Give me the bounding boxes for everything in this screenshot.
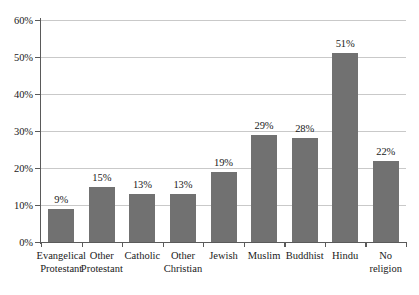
category-label-line: Jewish <box>209 250 238 263</box>
y-tick-mark <box>35 57 40 58</box>
category-label-line: Muslim <box>248 250 281 263</box>
x-axis-category-label: Jewish <box>209 250 238 263</box>
x-tick-mark <box>82 242 83 247</box>
x-axis-category-label: Noreligion <box>369 250 402 275</box>
bar-value-label: 13% <box>173 179 192 190</box>
y-axis-tick-label: 20% <box>14 163 33 174</box>
category-label-line: religion <box>369 263 402 276</box>
x-tick-mark <box>163 242 164 247</box>
bar-value-label: 28% <box>295 123 314 134</box>
category-label-line: Other <box>81 250 123 263</box>
bar <box>292 138 318 242</box>
x-tick-mark <box>122 242 123 247</box>
bar-chart: 0%10%20%30%40%50%60% 9%15%13%13%19%29%28… <box>0 0 419 295</box>
bar <box>48 209 74 242</box>
bar <box>373 161 399 242</box>
y-tick-mark <box>35 94 40 95</box>
y-tick-mark <box>35 20 40 21</box>
x-axis-category-label: OtherProtestant <box>81 250 123 275</box>
y-tick-mark <box>35 168 40 169</box>
category-label-line: No <box>369 250 402 263</box>
category-label-line: Protestant <box>81 263 123 276</box>
x-axis-category-label: Hindu <box>332 250 358 263</box>
y-axis-tick-label: 60% <box>14 15 33 26</box>
gridline <box>41 20 406 21</box>
bar <box>89 187 115 243</box>
x-axis-category-label: EvangelicalProtestant <box>36 250 86 275</box>
category-label-line: Catholic <box>125 250 161 263</box>
bar <box>129 194 155 242</box>
x-tick-mark <box>325 242 326 247</box>
bar <box>211 172 237 242</box>
y-tick-mark <box>35 131 40 132</box>
bar-value-label: 9% <box>54 194 68 205</box>
category-label-line: Hindu <box>332 250 358 263</box>
x-tick-mark <box>284 242 285 247</box>
y-axis-tick-label: 0% <box>19 237 33 248</box>
y-axis-tick-label: 30% <box>14 126 33 137</box>
bar <box>251 135 277 242</box>
x-axis-category-label: Muslim <box>248 250 281 263</box>
category-label-line: Christian <box>164 263 203 276</box>
bar-value-label: 13% <box>133 179 152 190</box>
bar <box>332 53 358 242</box>
x-axis-line <box>40 242 406 243</box>
bar-value-label: 51% <box>336 38 355 49</box>
category-label-line: Protestant <box>36 263 86 276</box>
y-tick-mark <box>35 242 40 243</box>
bar-value-label: 19% <box>214 157 233 168</box>
bar-value-label: 29% <box>255 120 274 131</box>
x-tick-mark <box>203 242 204 247</box>
y-axis-tick-label: 40% <box>14 89 33 100</box>
x-tick-mark <box>41 242 42 247</box>
bar-value-label: 15% <box>92 172 111 183</box>
y-axis-tick-label: 10% <box>14 200 33 211</box>
x-tick-mark <box>244 242 245 247</box>
y-axis-tick-label: 50% <box>14 52 33 63</box>
y-tick-mark <box>35 205 40 206</box>
x-axis-category-label: OtherChristian <box>164 250 203 275</box>
bar <box>170 194 196 242</box>
x-axis-category-label: Catholic <box>125 250 161 263</box>
x-tick-mark <box>365 242 366 247</box>
category-label-line: Evangelical <box>36 250 86 263</box>
category-label-line: Buddhist <box>286 250 324 263</box>
x-tick-mark <box>406 242 407 247</box>
bar-value-label: 22% <box>376 146 395 157</box>
x-axis-category-label: Buddhist <box>286 250 324 263</box>
category-label-line: Other <box>164 250 203 263</box>
y-axis-line <box>40 18 41 244</box>
